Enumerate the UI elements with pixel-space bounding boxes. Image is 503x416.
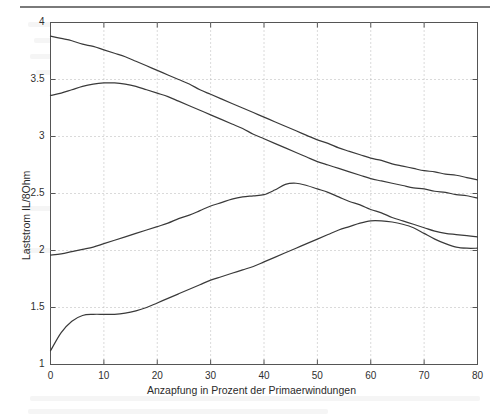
chart-figure: 11.522.533.54 01020304050607080 Anzapfun…	[0, 0, 503, 416]
y-tick-label: 4	[39, 16, 45, 27]
x-tick-label: 20	[137, 370, 177, 381]
y-tick-label: 3.5	[31, 73, 45, 84]
x-tick-label: 50	[297, 370, 337, 381]
x-tick-label: 0	[31, 370, 71, 381]
x-tick-label: 40	[244, 370, 284, 381]
y-tick-label: 2.5	[31, 187, 45, 198]
y-tick-label: 1.5	[31, 301, 45, 312]
y-tick-label: 2	[39, 244, 45, 255]
y-tick-label: 3	[39, 130, 45, 141]
x-tick-label: 80	[458, 370, 498, 381]
y-axis-title: Laststrom IL/8Ohm	[20, 171, 32, 260]
x-tick-label: 70	[404, 370, 444, 381]
x-tick-label: 60	[351, 370, 391, 381]
y-tick-label: 1	[39, 358, 45, 369]
plot-canvas	[0, 0, 503, 416]
x-axis-title: Anzapfung in Prozent der Primaerwindunge…	[0, 384, 503, 396]
x-tick-label: 30	[191, 370, 231, 381]
x-tick-label: 10	[84, 370, 124, 381]
